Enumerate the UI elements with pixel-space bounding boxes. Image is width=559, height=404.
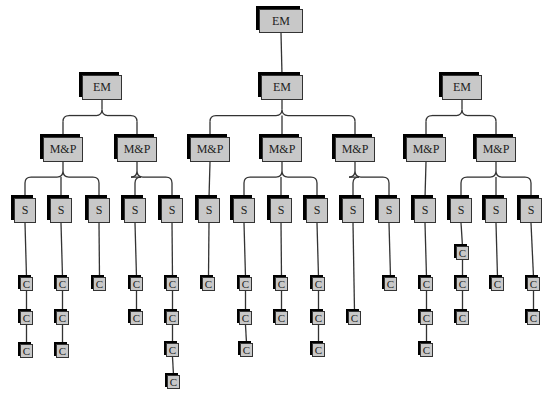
node-c: C bbox=[130, 311, 143, 325]
node-c: C bbox=[384, 277, 397, 291]
node-m-and-p: M&P bbox=[335, 137, 375, 162]
node-c: C bbox=[166, 343, 179, 357]
node-c: C bbox=[20, 311, 33, 325]
node-c: C bbox=[93, 277, 106, 291]
node-c: C bbox=[56, 277, 69, 291]
node-c: C bbox=[527, 277, 540, 291]
node-m-and-p: M&P bbox=[262, 137, 302, 162]
node-s: S bbox=[378, 198, 400, 223]
node-em: EM bbox=[261, 75, 303, 100]
node-c: C bbox=[130, 277, 143, 291]
node-s: S bbox=[450, 198, 472, 223]
node-c: C bbox=[166, 277, 179, 291]
node-c: C bbox=[202, 277, 215, 291]
node-c: C bbox=[312, 343, 325, 357]
node-c: C bbox=[275, 311, 288, 325]
node-c: C bbox=[456, 277, 469, 291]
node-s: S bbox=[342, 198, 364, 223]
org-chart-diagram: EMEMEMEMM&PM&PM&PM&PM&PM&PM&PSSSSSSSSSSS… bbox=[0, 0, 559, 404]
node-s: S bbox=[270, 198, 292, 223]
node-c: C bbox=[56, 311, 69, 325]
node-c: C bbox=[348, 311, 361, 325]
node-s: S bbox=[88, 198, 110, 223]
node-c: C bbox=[239, 277, 252, 291]
node-m-and-p: M&P bbox=[476, 137, 516, 162]
node-c: C bbox=[312, 277, 325, 291]
node-s: S bbox=[198, 198, 220, 223]
node-s: S bbox=[124, 198, 146, 223]
node-m-and-p: M&P bbox=[406, 137, 446, 162]
node-c: C bbox=[240, 343, 253, 357]
node-c: C bbox=[456, 311, 469, 325]
node-em: EM bbox=[259, 9, 303, 33]
node-em: EM bbox=[82, 75, 122, 100]
node-em: EM bbox=[442, 75, 482, 100]
node-m-and-p: M&P bbox=[190, 137, 230, 162]
node-c: C bbox=[420, 311, 433, 325]
node-c: C bbox=[527, 311, 540, 325]
node-m-and-p: M&P bbox=[117, 137, 157, 162]
node-c: C bbox=[420, 277, 433, 291]
node-s: S bbox=[306, 198, 328, 223]
node-c: C bbox=[456, 246, 469, 260]
node-c: C bbox=[166, 311, 179, 325]
node-s: S bbox=[233, 198, 255, 223]
node-c: C bbox=[167, 375, 180, 389]
node-c: C bbox=[20, 344, 33, 358]
node-c: C bbox=[56, 344, 69, 358]
node-c: C bbox=[491, 277, 504, 291]
node-s: S bbox=[50, 198, 72, 223]
node-c: C bbox=[420, 343, 433, 357]
node-s: S bbox=[14, 198, 36, 223]
node-c: C bbox=[312, 311, 325, 325]
node-c: C bbox=[275, 277, 288, 291]
node-m-and-p: M&P bbox=[43, 137, 83, 162]
node-s: S bbox=[520, 198, 542, 223]
node-s: S bbox=[161, 198, 183, 223]
node-s: S bbox=[414, 198, 436, 223]
node-c: C bbox=[20, 277, 33, 291]
node-c: C bbox=[239, 311, 252, 325]
node-s: S bbox=[485, 198, 507, 223]
